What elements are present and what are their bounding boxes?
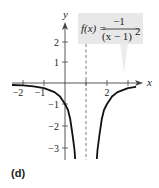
curve-right-branch (97, 87, 136, 159)
function-exponent: 2 (135, 25, 141, 37)
x-tick-label: −2 (13, 87, 24, 98)
function-label-callout: f(x) = −1 (x − 1) 2 (78, 13, 143, 73)
function-graph: f(x) = −1 (x − 1) 2 x −2 −1 2 y 2 1 −1 −… (0, 0, 159, 188)
y-tick-label: 1 (54, 57, 59, 68)
y-tick-label: 2 (54, 37, 59, 48)
x-axis-label: x (146, 76, 152, 88)
y-axis-label: y (62, 8, 68, 20)
panel-label: (d) (11, 167, 25, 179)
y-axis: y 2 1 −1 −2 −3 (48, 8, 68, 160)
function-denominator: (x − 1) (102, 30, 132, 43)
y-tick-label: −1 (48, 99, 59, 110)
y-tick-label: −3 (48, 143, 59, 154)
x-tick-label: 2 (105, 87, 110, 98)
callout-pointer (120, 43, 128, 73)
y-tick-label: −2 (48, 121, 59, 132)
function-numerator: −1 (113, 15, 125, 27)
